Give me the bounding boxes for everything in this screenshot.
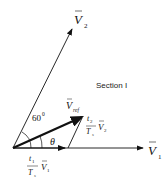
angle-60-label: 60 0 [32,111,45,123]
svg-text:s: s [34,173,36,178]
section-label: Section I [96,81,127,90]
v2-label: V 2 [74,11,88,30]
svg-text:1: 1 [47,168,50,173]
svg-text:V: V [148,143,158,158]
vref-label: V ref [66,99,80,113]
t1-component-label: t 1 T s V 1 [27,154,50,178]
svg-text:0: 0 [42,111,45,117]
svg-text:1: 1 [32,159,35,164]
svg-text:s: s [92,132,94,137]
space-vector-diagram: V 2 V 1 Section I V ref 60 0 θ t 2 T s V… [0,0,168,190]
svg-text:2: 2 [104,128,107,133]
theta-label: θ [50,136,55,147]
angle-theta-arc [40,136,42,148]
svg-text:T: T [28,168,33,177]
svg-text:2: 2 [90,119,93,124]
svg-text:ref: ref [73,107,80,113]
v1-label: V 1 [148,142,162,161]
angle-60-arc [22,132,31,148]
diagram-svg: V 2 V 1 Section I V ref 60 0 θ t 2 T s V… [0,0,168,190]
svg-text:V: V [74,12,84,27]
svg-text:60: 60 [32,113,42,123]
svg-text:2: 2 [84,22,88,30]
svg-text:1: 1 [158,153,162,161]
svg-text:T: T [86,127,91,136]
t2-component-label: t 2 T s V 2 [86,114,107,137]
v2-axis [13,29,72,148]
